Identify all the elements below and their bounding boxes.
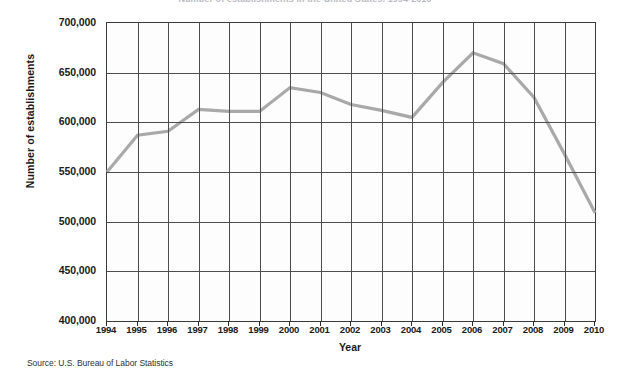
gridline-vertical <box>565 23 566 321</box>
x-axis-tick-mark <box>442 321 443 326</box>
x-axis-tick-mark <box>381 321 382 326</box>
y-axis-tick-label: 500,000 <box>24 215 96 227</box>
plot-area <box>106 22 596 322</box>
gridline-vertical <box>168 23 169 321</box>
x-axis-title: Year <box>106 341 594 353</box>
gridline-vertical <box>229 23 230 321</box>
y-axis-tick-label: 450,000 <box>24 264 96 276</box>
x-axis-tick-labels: 1994199519961997199819992000200120022003… <box>106 324 594 338</box>
x-axis-tick-mark <box>106 321 107 326</box>
y-axis-tick-label: 700,000 <box>24 16 96 28</box>
gridline-vertical <box>351 23 352 321</box>
x-axis-tick-mark <box>320 321 321 326</box>
gridline-vertical <box>321 23 322 321</box>
gridline-vertical <box>382 23 383 321</box>
x-axis-tick-mark <box>533 321 534 326</box>
x-axis-tick-mark <box>228 321 229 326</box>
gridline-vertical <box>534 23 535 321</box>
y-axis-tick-label: 550,000 <box>24 165 96 177</box>
source-note: Source: U.S. Bureau of Labor Statistics <box>27 358 173 368</box>
x-axis-tick-mark <box>564 321 565 326</box>
x-axis-tick-mark <box>259 321 260 326</box>
gridline-vertical <box>290 23 291 321</box>
x-axis-tick-mark <box>198 321 199 326</box>
gridline-vertical <box>473 23 474 321</box>
gridline-vertical <box>260 23 261 321</box>
y-axis-tick-label: 650,000 <box>24 66 96 78</box>
line-chart-figure: Number of establishments in the United S… <box>0 0 622 381</box>
x-axis-tick-mark <box>594 321 595 326</box>
chart-title: Number of establishments in the United S… <box>70 0 540 2</box>
x-axis-tick-mark <box>167 321 168 326</box>
x-axis-tick-mark <box>137 321 138 326</box>
gridline-vertical <box>199 23 200 321</box>
x-axis-tick-mark <box>350 321 351 326</box>
x-axis-tick-mark <box>411 321 412 326</box>
x-axis-tick-mark <box>289 321 290 326</box>
gridline-vertical <box>138 23 139 321</box>
gridline-vertical <box>443 23 444 321</box>
x-axis-tick-mark <box>503 321 504 326</box>
gridline-vertical <box>412 23 413 321</box>
gridline-vertical <box>504 23 505 321</box>
x-axis-tick-mark <box>472 321 473 326</box>
y-axis-tick-label: 600,000 <box>24 115 96 127</box>
